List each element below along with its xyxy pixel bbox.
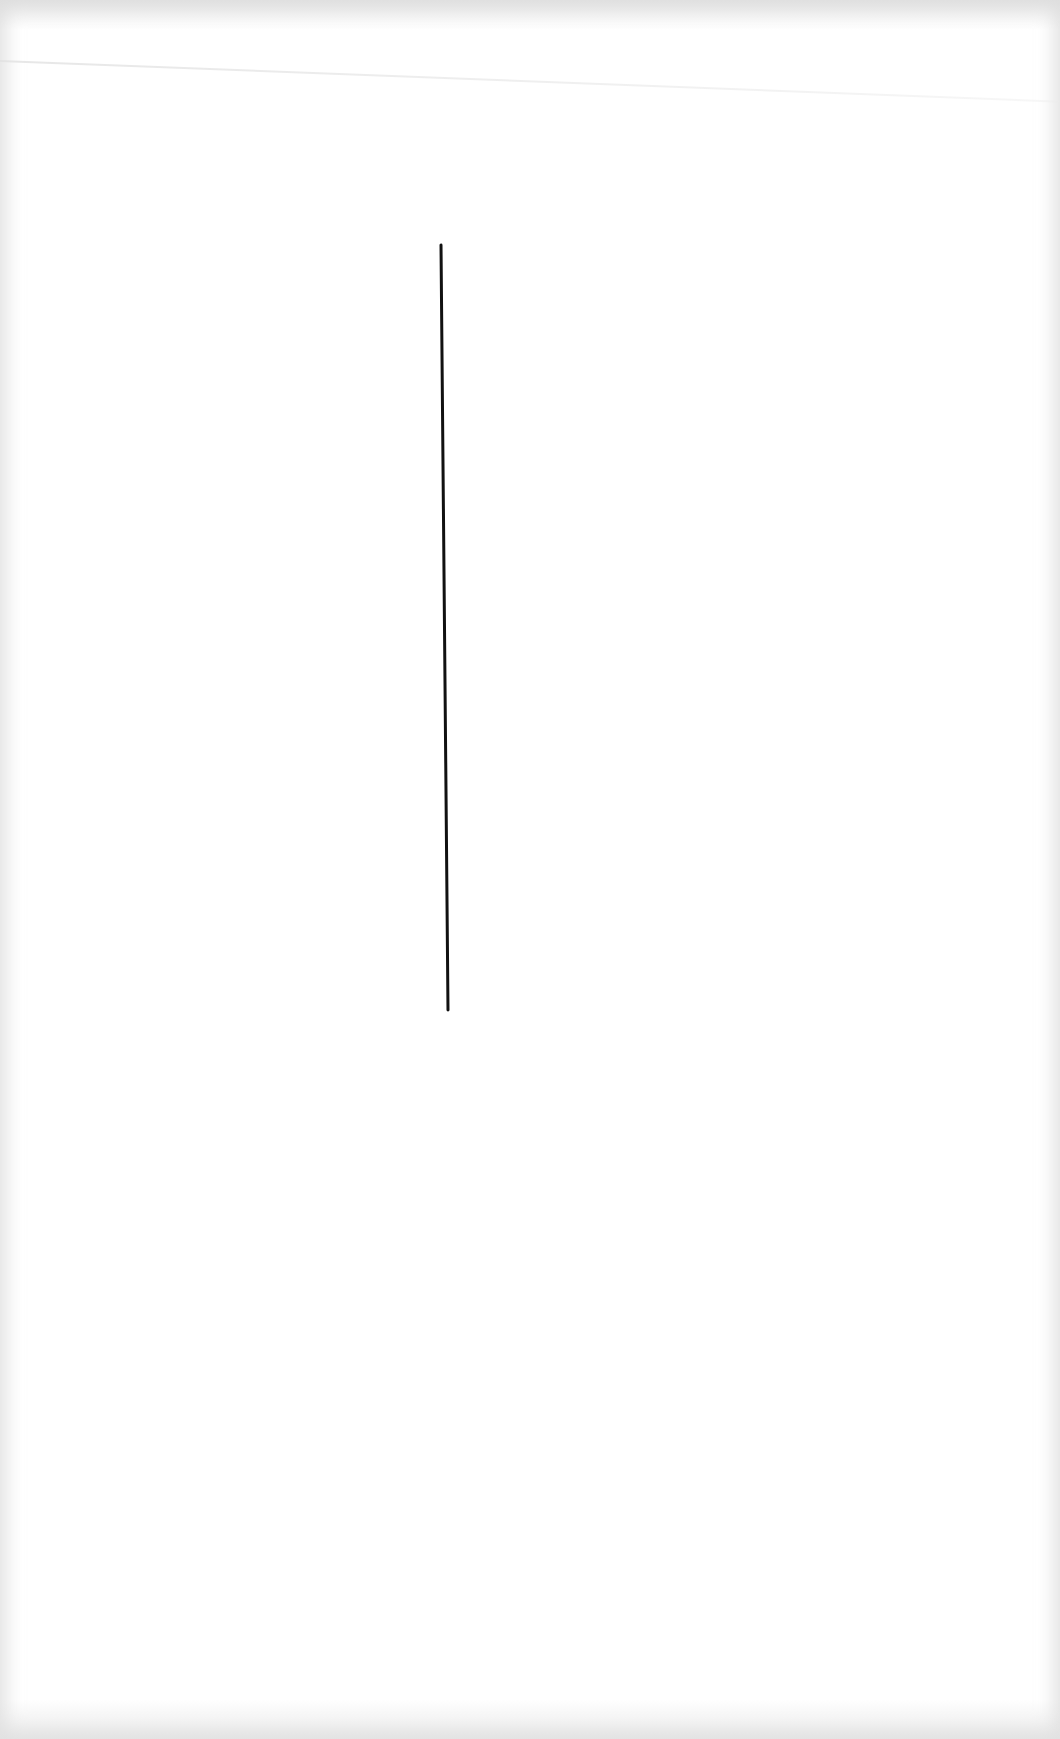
hand-drawn-vertical-line bbox=[441, 245, 448, 1010]
drawing-canvas bbox=[0, 0, 1060, 1739]
blank-scanned-page bbox=[0, 0, 1060, 1739]
